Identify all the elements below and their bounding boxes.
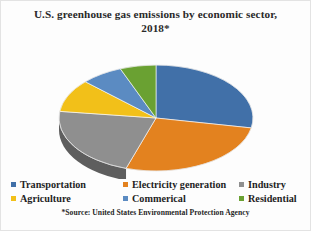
legend-swatch-icon	[11, 182, 16, 187]
legend-swatch-icon	[239, 196, 244, 201]
legend-item-commerical[interactable]: Commerical	[123, 191, 186, 206]
pie-chart	[1, 33, 311, 179]
legend-item-electricity-generation[interactable]: Electricity generation	[123, 177, 226, 192]
legend-item-industry[interactable]: Industry	[239, 177, 286, 192]
legend-label: Electricity generation	[132, 179, 226, 190]
legend-item-transportation[interactable]: Transportation	[11, 177, 86, 192]
legend-item-residential[interactable]: Residential	[239, 191, 297, 206]
legend-swatch-icon	[123, 182, 128, 187]
pie-top-face	[59, 65, 253, 171]
legend-swatch-icon	[239, 182, 244, 187]
pie-chart-svg	[1, 33, 311, 179]
source-note: *Source: United States Environmental Pro…	[1, 208, 310, 217]
legend-label: Commerical	[132, 193, 186, 204]
legend-swatch-icon	[11, 196, 16, 201]
legend-row: Agriculture Commerical Residential	[1, 191, 311, 206]
legend-label: Residential	[248, 193, 297, 204]
chart-image: U.S. greenhouse gas emissions by economi…	[0, 0, 311, 231]
legend-label: Transportation	[20, 179, 86, 190]
legend-swatch-icon	[123, 196, 128, 201]
legend-label: Industry	[248, 179, 286, 190]
pie-slice-transportation[interactable]	[156, 65, 253, 128]
legend-item-agriculture[interactable]: Agriculture	[11, 191, 71, 206]
legend-label: Agriculture	[20, 193, 71, 204]
chart-legend: Transportation Electricity generation In…	[1, 177, 311, 209]
legend-row: Transportation Electricity generation In…	[1, 177, 311, 192]
chart-title-line-1: U.S. greenhouse gas emissions by economi…	[15, 8, 296, 22]
page-title: U.S. greenhouse gas emissions by economi…	[15, 8, 296, 35]
